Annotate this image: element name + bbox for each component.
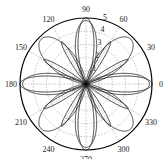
angle-tick-label: 120	[43, 15, 55, 24]
radial-tick-label: 5	[103, 13, 107, 22]
angle-tick-label: 150	[15, 43, 27, 52]
angle-tick-label: 30	[147, 43, 155, 52]
radial-tick-label: 4	[100, 25, 104, 34]
angle-tick-label: 60	[120, 15, 128, 24]
polar-plot: 030609012015018021024027030033012345	[0, 0, 165, 159]
radial-tick-label: 3	[98, 38, 102, 47]
angle-tick-label: 0	[159, 80, 163, 89]
radial-tick-label: 1	[92, 64, 96, 73]
angle-tick-label: 90	[82, 5, 90, 14]
angle-tick-label: 180	[5, 80, 17, 89]
angle-tick-label: 330	[145, 118, 157, 127]
angle-tick-label: 210	[15, 118, 27, 127]
radial-tick-label: 2	[95, 51, 99, 60]
angle-tick-label: 240	[43, 145, 55, 154]
rose-curve	[23, 21, 150, 148]
angle-tick-label: 270	[80, 155, 92, 159]
angle-tick-label: 300	[118, 145, 130, 154]
